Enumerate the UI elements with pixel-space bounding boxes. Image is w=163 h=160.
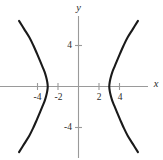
x-tick-label-minus2: -2: [55, 92, 63, 102]
x-tick-label-4: 4: [118, 92, 123, 102]
hyperbola-figure: -4 -2 2 4 4 -4 y x: [0, 0, 163, 160]
x-tick-label-minus4: -4: [34, 92, 42, 102]
y-tick-label-4: 4: [67, 40, 72, 50]
coordinate-plot: -4 -2 2 4 4 -4 y x: [0, 0, 163, 160]
x-tick-label-2: 2: [97, 92, 102, 102]
y-tick-label-minus4: -4: [64, 122, 72, 132]
y-axis-title: y: [75, 2, 81, 13]
x-axis-title: x: [153, 78, 159, 89]
